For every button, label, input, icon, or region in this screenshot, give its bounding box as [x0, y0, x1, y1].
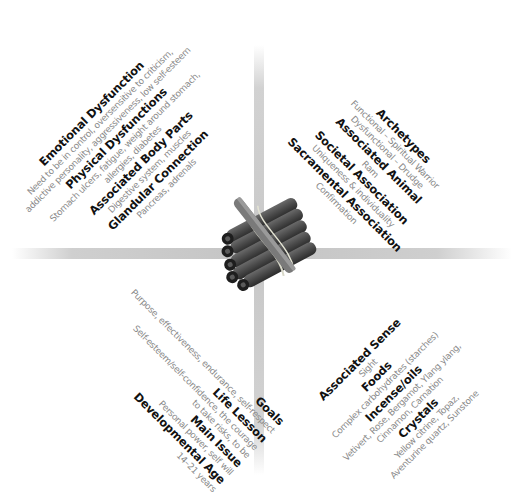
- quadrant-bottom-right: Associated Sense Sight Foods Complex car…: [274, 274, 519, 496]
- cinnamon-bundle-icon: [205, 185, 325, 300]
